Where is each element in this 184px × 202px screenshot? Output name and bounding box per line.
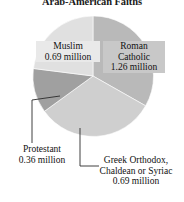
pie-label-roman-catholic: Roman Catholic 1.26 million bbox=[103, 41, 165, 73]
pie-label-protestant-name: Protestant bbox=[6, 144, 78, 155]
pie-label-muslim: Muslim 0.69 million bbox=[36, 41, 100, 62]
pie-label-greek-orthodox-value: 0.69 million bbox=[88, 176, 184, 187]
pie-label-greek-orthodox-name-1: Greek Orthodox, bbox=[88, 155, 184, 166]
pie-label-roman-catholic-name-1: Roman bbox=[103, 41, 165, 52]
chart-figure: Arab-American Faiths Muslim 0.69 million… bbox=[0, 0, 184, 202]
pie-label-roman-catholic-value: 1.26 million bbox=[103, 62, 165, 73]
pie-label-protestant-value: 0.36 million bbox=[6, 155, 78, 166]
pie-label-greek-orthodox-name-2: Chaldean or Syriac bbox=[88, 166, 184, 177]
pie-label-protestant: Protestant 0.36 million bbox=[6, 144, 78, 165]
pie-label-greek-orthodox: Greek Orthodox, Chaldean or Syriac 0.69 … bbox=[88, 155, 184, 187]
pie-label-roman-catholic-name-2: Catholic bbox=[103, 52, 165, 63]
pie-label-muslim-value: 0.69 million bbox=[36, 52, 100, 63]
pie-label-muslim-name: Muslim bbox=[36, 41, 100, 52]
